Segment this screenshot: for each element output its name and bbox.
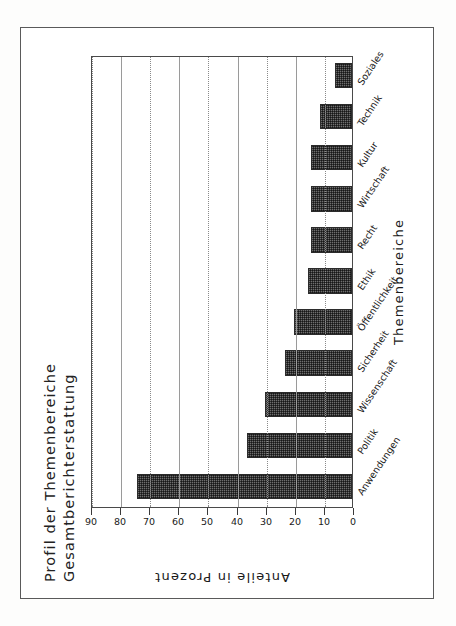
bar-chart-figure: Profil der Themenbereiche Gesamtberichte… xyxy=(39,40,417,586)
bar xyxy=(265,392,352,417)
y-axis-tick-label: 60 xyxy=(172,516,184,527)
y-axis-tick-label: 0 xyxy=(350,516,356,527)
bar-series xyxy=(92,57,352,507)
plot-area-wrapper xyxy=(91,56,353,508)
y-axis-tick-label: 40 xyxy=(231,516,243,527)
y-axis: 0102030405060708090 xyxy=(91,508,353,586)
bar xyxy=(294,309,352,334)
y-axis-tick-mark xyxy=(149,508,150,515)
bar-slot xyxy=(90,309,352,334)
y-axis-tick-label: 90 xyxy=(85,516,97,527)
y-axis-tick-mark xyxy=(91,508,92,515)
y-axis-tick-mark xyxy=(237,508,238,515)
bar-slot xyxy=(90,186,352,211)
gridline xyxy=(150,57,151,507)
bar-slot xyxy=(90,104,352,129)
x-axis-tick-label: Ethik xyxy=(355,266,377,292)
bar xyxy=(308,268,352,293)
y-axis-tick-mark xyxy=(295,508,296,515)
plot-area xyxy=(91,56,353,508)
x-axis-tick-label: Recht xyxy=(355,223,379,252)
y-axis-tick-mark xyxy=(266,508,267,515)
bar-slot xyxy=(90,433,352,458)
scanned-page: Profil der Themenbereiche Gesamtberichte… xyxy=(0,0,456,626)
gridline xyxy=(325,57,326,507)
bar xyxy=(311,227,352,252)
x-axis-tick-label: Soziales xyxy=(355,48,386,86)
y-axis-tick-label: 30 xyxy=(260,516,272,527)
bar-slot xyxy=(90,63,352,88)
chart-title: Profil der Themenbereiche xyxy=(41,363,60,582)
x-axis-tick-label: Kultur xyxy=(355,139,380,168)
bar-slot xyxy=(90,392,352,417)
bar xyxy=(247,433,352,458)
y-axis-tick-mark xyxy=(353,508,354,515)
gridline xyxy=(296,57,297,507)
y-axis-tick-label: 70 xyxy=(143,516,155,527)
y-axis-tick-mark xyxy=(207,508,208,515)
gridline xyxy=(238,57,239,507)
bar xyxy=(137,474,352,499)
x-axis-title: Themenbereiche xyxy=(391,56,406,508)
gridline xyxy=(267,57,268,507)
bar xyxy=(311,145,352,170)
bar-slot xyxy=(90,474,352,499)
y-axis-tick-mark xyxy=(178,508,179,515)
y-axis-tick-label: 50 xyxy=(201,516,213,527)
rotated-figure-stage: Profil der Themenbereiche Gesamtberichte… xyxy=(0,0,456,626)
y-axis-tick-mark xyxy=(324,508,325,515)
gridline xyxy=(121,57,122,507)
chart-subtitle: Gesamtberichterstattung xyxy=(60,363,79,582)
y-axis-tick-mark xyxy=(120,508,121,515)
x-axis-tick-label: Wirtschaft xyxy=(355,164,391,210)
bar-slot xyxy=(90,227,352,252)
y-axis-tick-label: 10 xyxy=(318,516,330,527)
x-axis-tick-label: Politik xyxy=(355,427,380,457)
y-axis-tick-label: 80 xyxy=(114,516,126,527)
x-axis-tick-label: Technik xyxy=(355,92,384,128)
bar-slot xyxy=(90,145,352,170)
bar-slot xyxy=(90,268,352,293)
bar xyxy=(311,186,352,211)
gridline xyxy=(179,57,180,507)
chart-title-block: Profil der Themenbereiche Gesamtberichte… xyxy=(41,363,79,582)
bar-slot xyxy=(90,350,352,375)
gridline xyxy=(208,57,209,507)
bar xyxy=(335,63,352,88)
y-axis-tick-label: 20 xyxy=(289,516,301,527)
gridline xyxy=(92,57,93,507)
